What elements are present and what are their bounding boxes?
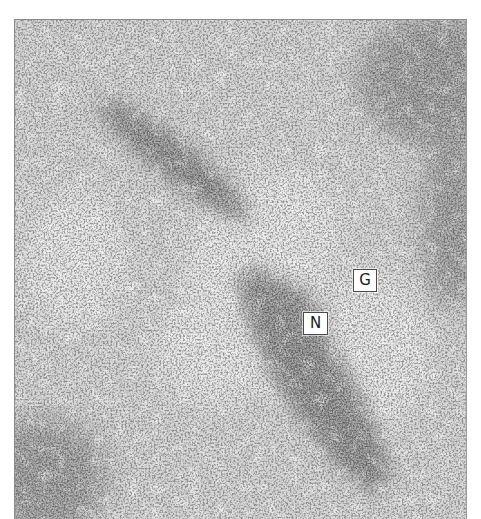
micrograph-frame: G N	[14, 19, 467, 519]
micrograph-image	[15, 20, 466, 519]
label-g-text: G	[359, 273, 371, 288]
label-n-text: N	[310, 316, 321, 331]
label-n: N	[303, 312, 328, 335]
label-g: G	[353, 269, 377, 292]
